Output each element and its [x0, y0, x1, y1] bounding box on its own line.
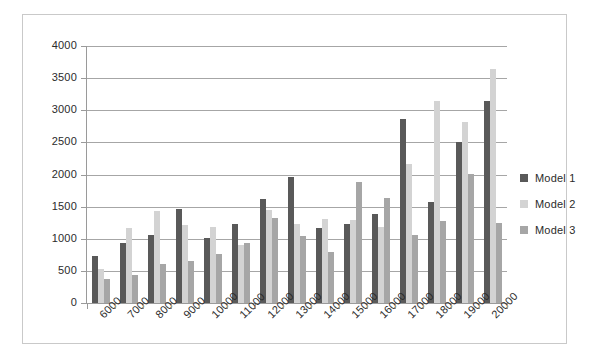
x-tick-mark	[283, 304, 284, 309]
y-tick-mark	[81, 239, 86, 240]
y-tick-mark	[81, 271, 86, 272]
x-tick-mark	[367, 304, 368, 309]
y-tick-mark	[81, 110, 86, 111]
x-tick-mark	[479, 304, 480, 309]
bar-group	[479, 46, 507, 303]
x-tick-mark	[115, 304, 116, 309]
y-tick-label: 0	[71, 297, 77, 308]
legend-item[interactable]: Model 3	[520, 217, 589, 243]
bar-group	[199, 46, 227, 303]
x-tick-mark	[395, 304, 396, 309]
legend-item[interactable]: Model 1	[520, 165, 589, 191]
y-tick-mark	[81, 142, 86, 143]
legend-label: Model 1	[535, 172, 576, 184]
bar[interactable]	[328, 252, 334, 303]
y-tick-mark	[81, 207, 86, 208]
x-tick-mark	[507, 304, 508, 309]
x-tick-mark	[423, 304, 424, 309]
x-tick-mark	[227, 304, 228, 309]
y-tick-mark	[81, 78, 86, 79]
bar-group	[395, 46, 423, 303]
bar[interactable]	[244, 243, 250, 303]
legend-item[interactable]: Model 2	[520, 191, 589, 217]
x-tick-mark	[171, 304, 172, 309]
y-tick-mark	[81, 46, 86, 47]
bar-group	[339, 46, 367, 303]
y-tick-label: 1500	[52, 201, 77, 212]
bar-group	[227, 46, 255, 303]
bar-group	[255, 46, 283, 303]
legend-swatch-icon	[520, 174, 528, 182]
y-tick-mark	[81, 303, 86, 304]
y-tick-label: 4000	[52, 40, 77, 51]
bar-group	[311, 46, 339, 303]
x-tick-mark	[339, 304, 340, 309]
x-tick-mark	[255, 304, 256, 309]
y-tick-label: 3000	[52, 104, 77, 115]
bar-group	[143, 46, 171, 303]
bar-group	[115, 46, 143, 303]
y-tick-label: 3500	[52, 72, 77, 83]
bar[interactable]	[440, 221, 446, 303]
bar-group	[367, 46, 395, 303]
y-tick-label: 500	[58, 265, 77, 276]
bar[interactable]	[216, 254, 222, 303]
y-tick-label: 2000	[52, 169, 77, 180]
y-tick-mark	[81, 175, 86, 176]
legend-label: Model 2	[535, 198, 576, 210]
y-tick-label: 2500	[52, 136, 77, 147]
x-tick-mark	[311, 304, 312, 309]
bars-layer	[87, 46, 507, 303]
y-tick-label: 1000	[52, 233, 77, 244]
bar[interactable]	[356, 182, 362, 303]
bar-group	[423, 46, 451, 303]
chart-frame: 05001000150020002500300035004000 6000700…	[22, 14, 567, 344]
bar-group	[283, 46, 311, 303]
bar-group	[87, 46, 115, 303]
x-tick-mark	[199, 304, 200, 309]
bar-group	[451, 46, 479, 303]
legend-swatch-icon	[520, 200, 528, 208]
bar[interactable]	[384, 198, 390, 303]
bar-group	[171, 46, 199, 303]
legend-label: Model 3	[535, 224, 576, 236]
x-tick-mark	[143, 304, 144, 309]
x-tick-mark	[451, 304, 452, 309]
chart-legend: Model 1Model 2Model 3	[520, 165, 589, 243]
bar[interactable]	[188, 261, 194, 303]
x-tick-mark	[87, 304, 88, 309]
bar[interactable]	[412, 235, 418, 303]
bar[interactable]	[496, 223, 502, 303]
bar[interactable]	[468, 174, 474, 303]
bar[interactable]	[160, 264, 166, 303]
y-axis-labels: 05001000150020002500300035004000	[23, 15, 77, 345]
bar[interactable]	[272, 218, 278, 303]
bar[interactable]	[300, 236, 306, 303]
legend-swatch-icon	[520, 226, 528, 234]
